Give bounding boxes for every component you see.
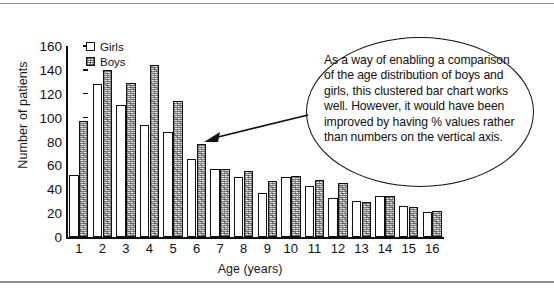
bar-girls-age-15 — [399, 206, 408, 237]
x-axis-line — [66, 237, 444, 239]
y-axis-tick-labels: 020406080100120140160 — [22, 0, 62, 297]
legend-swatch-girls-icon — [86, 42, 95, 51]
x-tick-10: 10 — [284, 241, 298, 256]
bar-boys-age-1 — [79, 121, 88, 237]
bar-group-age-5 — [161, 46, 185, 237]
bar-girls-age-3 — [116, 105, 125, 238]
x-tick-12: 12 — [331, 241, 345, 256]
y-tick-100: 100 — [39, 110, 62, 125]
x-tick-4: 4 — [146, 241, 153, 256]
x-tick-9: 9 — [264, 241, 271, 256]
callout-arrow-icon — [196, 112, 316, 152]
bar-boys-age-7 — [220, 169, 229, 237]
x-tick-1: 1 — [75, 241, 82, 256]
bar-boys-age-6 — [197, 144, 206, 237]
bar-girls-age-16 — [423, 212, 432, 237]
bar-boys-age-11 — [315, 180, 324, 237]
y-tick-140: 140 — [39, 62, 62, 77]
x-tick-13: 13 — [354, 241, 368, 256]
x-tick-15: 15 — [401, 241, 415, 256]
y-tick-0: 0 — [54, 230, 62, 245]
bar-boys-age-5 — [173, 101, 182, 237]
bar-girls-age-14 — [375, 196, 384, 237]
x-tick-8: 8 — [240, 241, 247, 256]
legend-swatch-boys-icon — [86, 57, 95, 66]
y-tick-60: 60 — [47, 158, 62, 173]
bar-boys-age-3 — [126, 83, 135, 237]
bar-boys-age-14 — [385, 196, 394, 237]
y-tick-20: 20 — [47, 206, 62, 221]
x-tick-3: 3 — [122, 241, 129, 256]
x-tick-7: 7 — [217, 241, 224, 256]
annotation-callout: As a way of enabling a comparison of the… — [306, 37, 534, 187]
bar-girls-age-10 — [281, 177, 290, 237]
bar-boys-age-8 — [244, 171, 253, 237]
x-tick-5: 5 — [169, 241, 176, 256]
y-tick-120: 120 — [39, 86, 62, 101]
bar-boys-age-2 — [103, 70, 112, 237]
x-tick-14: 14 — [378, 241, 392, 256]
legend-label-boys: Boys — [100, 56, 126, 68]
legend-item-boys: Boys — [86, 55, 126, 68]
bar-boys-age-4 — [150, 65, 159, 237]
x-tick-2: 2 — [99, 241, 106, 256]
y-tick-80: 80 — [47, 134, 62, 149]
bar-girls-age-13 — [352, 201, 361, 237]
bar-girls-age-2 — [93, 84, 102, 237]
bar-boys-age-12 — [338, 183, 347, 237]
bar-boys-age-16 — [432, 211, 441, 237]
legend-item-girls: Girls — [86, 40, 126, 53]
bar-girls-age-6 — [187, 159, 196, 237]
bar-girls-age-7 — [210, 169, 219, 237]
bar-group-age-1 — [67, 46, 91, 237]
bar-girls-age-8 — [234, 177, 243, 237]
bar-boys-age-9 — [268, 181, 277, 237]
bar-group-age-4 — [138, 46, 162, 237]
y-tick-160: 160 — [39, 39, 62, 54]
bar-girls-age-4 — [140, 125, 149, 237]
bar-group-age-3 — [114, 46, 138, 237]
y-tick-40: 40 — [47, 182, 62, 197]
bar-group-age-2 — [91, 46, 115, 237]
bar-boys-age-13 — [362, 202, 371, 237]
x-tick-16: 16 — [425, 241, 439, 256]
bar-boys-age-15 — [409, 207, 418, 237]
bar-girls-age-1 — [69, 175, 78, 237]
x-tick-11: 11 — [308, 241, 322, 256]
x-tick-6: 6 — [193, 241, 200, 256]
chart-legend: Girls Boys — [86, 40, 126, 70]
bar-girls-age-9 — [258, 193, 267, 237]
bar-boys-age-10 — [291, 176, 300, 237]
bar-girls-age-12 — [328, 198, 337, 237]
bar-girls-age-5 — [163, 132, 172, 237]
bar-girls-age-11 — [305, 186, 314, 237]
legend-label-girls: Girls — [100, 41, 124, 53]
x-axis-label: Age (years) — [150, 262, 350, 276]
callout-text: As a way of enabling a comparison of the… — [324, 53, 520, 173]
